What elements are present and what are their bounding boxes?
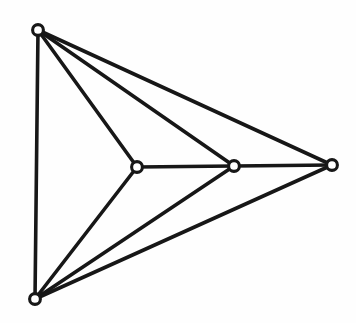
- graph-figure: [0, 0, 356, 323]
- edge-top-left-to-inner-right: [38, 30, 234, 166]
- edge-top-left-to-inner-left: [38, 30, 137, 167]
- edge-inner-left-to-inner-right: [137, 166, 234, 167]
- edge-bottom-left-to-inner-left: [35, 167, 137, 299]
- edge-layer: [35, 30, 332, 299]
- bottom-left-vertex: [30, 294, 41, 305]
- edge-top-left-to-right: [38, 30, 332, 165]
- top-left-vertex: [33, 25, 44, 36]
- inner-right-vertex: [229, 161, 240, 172]
- right-vertex: [327, 160, 338, 171]
- edge-bottom-left-to-right: [35, 165, 332, 299]
- inner-left-vertex: [132, 162, 143, 173]
- graph-canvas: [0, 0, 356, 323]
- edge-inner-right-to-right: [234, 165, 332, 166]
- edge-bottom-left-to-inner-right: [35, 166, 234, 299]
- edge-top-left-to-bottom-left: [35, 30, 38, 299]
